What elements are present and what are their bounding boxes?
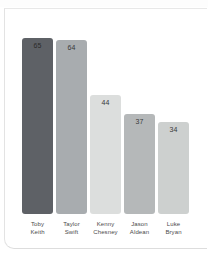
bar[interactable]: 37JasonAldean xyxy=(124,114,155,214)
bar-column: 44KennyChesney xyxy=(90,95,121,214)
chart-card: 65TobyKeith64TaylorSwift44KennyChesney37… xyxy=(4,8,207,249)
bar[interactable]: 44KennyChesney xyxy=(90,95,121,214)
bar-column: 65TobyKeith xyxy=(22,38,53,214)
bar-category-label-line2: Bryan xyxy=(151,228,196,236)
bar-value-label: 37 xyxy=(124,118,155,126)
bar-column: 34LukeBryan xyxy=(158,122,189,214)
top-strip xyxy=(0,0,208,7)
screenshot-root: 65TobyKeith64TaylorSwift44KennyChesney37… xyxy=(0,0,208,257)
bar-value-label: 34 xyxy=(158,126,189,134)
bar-category-label-line1: Luke xyxy=(151,220,196,228)
bar-value-label: 65 xyxy=(22,42,53,50)
bar-category-label: LukeBryan xyxy=(151,220,196,236)
bar-column: 64TaylorSwift xyxy=(56,40,87,214)
bar-value-label: 44 xyxy=(90,99,121,107)
bar[interactable]: 64TaylorSwift xyxy=(56,40,87,214)
bar[interactable]: 65TobyKeith xyxy=(22,38,53,214)
bar-chart-plot: 65TobyKeith64TaylorSwift44KennyChesney37… xyxy=(5,9,207,248)
bar-value-label: 64 xyxy=(56,44,87,52)
bar-column: 37JasonAldean xyxy=(124,114,155,214)
bar[interactable]: 34LukeBryan xyxy=(158,122,189,214)
